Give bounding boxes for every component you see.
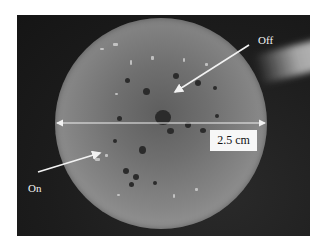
annotation-arrows xyxy=(0,0,326,245)
on-arrow xyxy=(38,153,100,172)
off-arrow xyxy=(175,45,249,92)
